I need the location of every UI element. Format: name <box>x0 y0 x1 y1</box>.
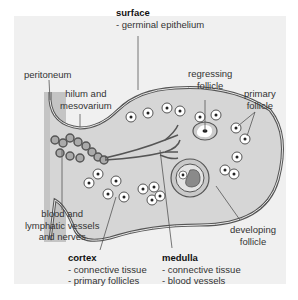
label-medulla-line2: - blood vessels <box>162 275 225 286</box>
label-primary-line2: follicle <box>247 100 273 111</box>
label-vessels: blood and lymphatic vessels and nerves <box>25 208 99 243</box>
label-vessels-line2: lymphatic vessels <box>25 220 99 231</box>
label-peritoneum: peritoneum <box>24 69 72 81</box>
developing-follicle <box>171 159 209 197</box>
label-developing: developing follicle <box>230 224 276 247</box>
label-primary-line1: primary <box>244 88 276 99</box>
label-surface-desc: - germinal epithelium <box>116 19 204 30</box>
label-primary: primary follicle <box>244 88 276 111</box>
label-hilum-line2: mesovarium <box>60 100 112 111</box>
label-vessels-line1: blood and <box>41 208 83 219</box>
label-cortex-title: cortex <box>68 252 97 263</box>
label-medulla-line1: - connective tissue <box>162 264 241 275</box>
label-surface-title: surface <box>116 7 150 18</box>
label-vessels-line3: and nerves <box>39 231 86 242</box>
label-cortex-line2: - primary follicles <box>68 275 139 286</box>
label-regressing-line2: follicle <box>197 80 223 91</box>
label-hilum: hilum and mesovarium <box>60 88 112 111</box>
label-regressing: regressing follicle <box>188 68 232 91</box>
label-regressing-line1: regressing <box>188 68 232 79</box>
label-medulla-title: medulla <box>162 252 198 263</box>
label-surface: surface - germinal epithelium <box>116 7 204 30</box>
label-developing-line2: follicle <box>240 236 266 247</box>
label-hilum-line1: hilum and <box>65 88 106 99</box>
label-cortex: cortex - connective tissue - primary fol… <box>68 252 147 287</box>
label-medulla: medulla - connective tissue - blood vess… <box>162 252 241 287</box>
label-cortex-line1: - connective tissue <box>68 264 147 275</box>
label-developing-line1: developing <box>230 224 276 235</box>
ovary-diagram <box>0 0 298 300</box>
